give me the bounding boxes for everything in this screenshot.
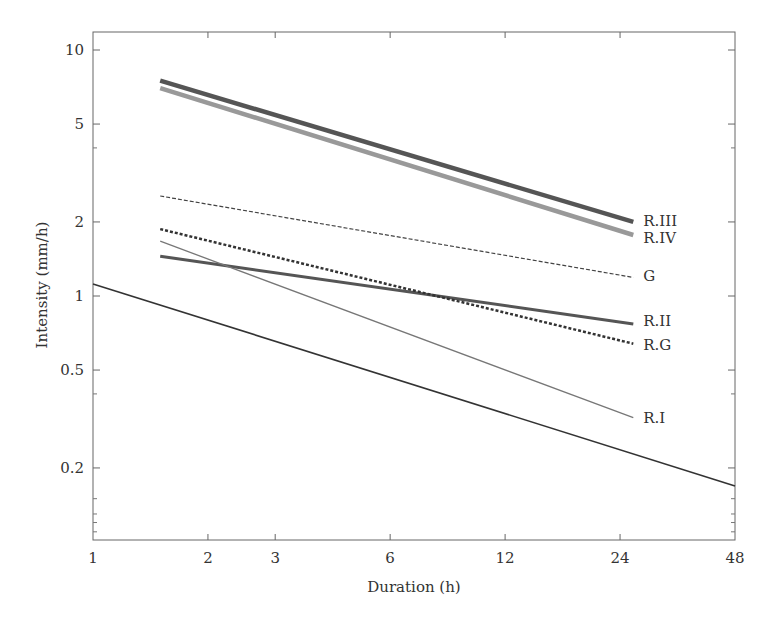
x-tick-label: 1 [88, 549, 98, 567]
series-line-r-iv [160, 88, 633, 235]
x-axis-title: Duration (h) [367, 578, 460, 596]
series-label: R.G [643, 336, 671, 354]
series-line-r-i [160, 241, 633, 418]
series-label: G [643, 267, 655, 285]
series-label: R.II [643, 312, 671, 330]
plot-border [93, 32, 735, 540]
y-tick-label: 0.5 [60, 361, 84, 379]
series-label: R.III [643, 212, 677, 230]
series-lines [93, 81, 735, 486]
intensity-duration-chart: 1236122448 105210.50.2 R.IIIR.IVGR.IIR.G… [0, 0, 772, 627]
series-line-r-g [160, 229, 633, 344]
x-tick-label: 3 [270, 549, 280, 567]
series-label: R.I [643, 409, 665, 427]
x-axis-ticks: 1236122448 [88, 32, 744, 567]
y-tick-label: 0.2 [60, 459, 84, 477]
y-tick-label: 5 [74, 115, 84, 133]
series-line-r-iii [160, 81, 633, 222]
y-tick-label: 1 [74, 287, 84, 305]
x-tick-label: 6 [385, 549, 395, 567]
x-tick-label: 24 [611, 549, 630, 567]
y-tick-label: 10 [65, 41, 84, 59]
plot-frame [93, 32, 735, 540]
series-label: R.IV [643, 229, 677, 247]
y-tick-label: 2 [74, 213, 84, 231]
y-axis-title: Intensity (mm/h) [33, 222, 51, 349]
y-axis-ticks: 105210.50.2 [60, 41, 735, 532]
x-tick-label: 2 [203, 549, 213, 567]
x-tick-label: 48 [725, 549, 744, 567]
x-tick-label: 12 [496, 549, 515, 567]
series-line-reference [93, 284, 735, 486]
series-line-r-ii [160, 256, 633, 324]
series-labels: R.IIIR.IVGR.IIR.GR.I [643, 212, 677, 427]
